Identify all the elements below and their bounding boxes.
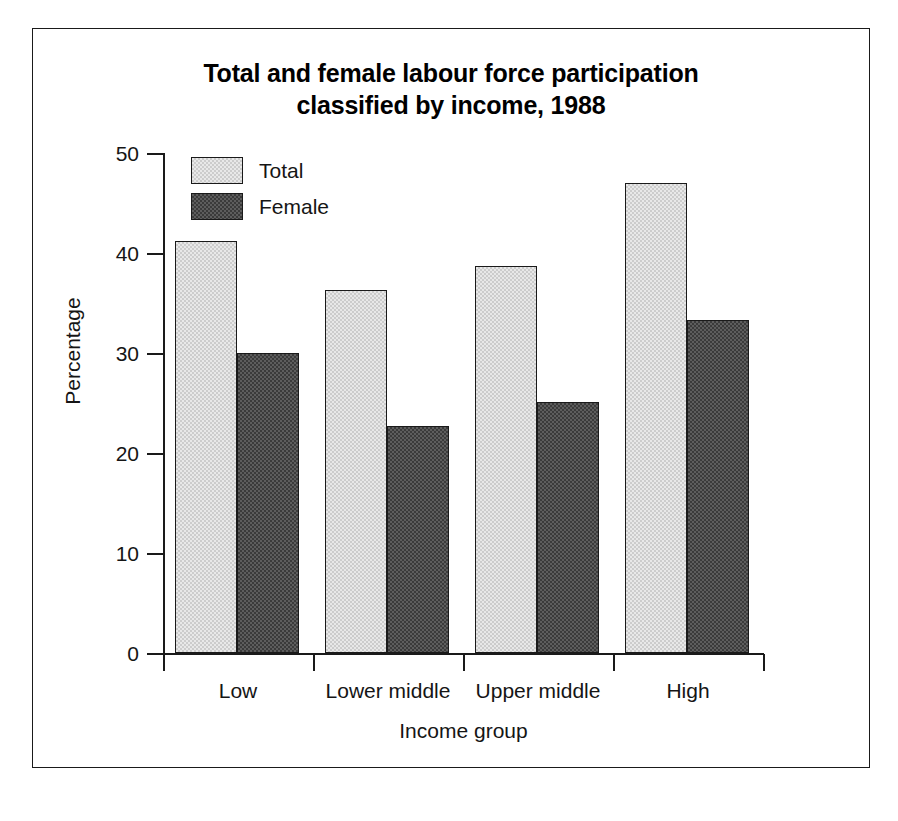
y-axis-tick-group: 50 40 30 20 10 0: [33, 29, 139, 769]
y-tick-label-40: 40: [79, 242, 139, 266]
x-tick-mark-1: [313, 654, 315, 671]
y-tick-mark-10: [147, 553, 163, 555]
y-tick-mark-50: [147, 153, 163, 155]
y-tick-label-50: 50: [79, 142, 139, 166]
y-tick-label-10: 10: [79, 542, 139, 566]
bar-total-high[interactable]: [625, 183, 687, 653]
x-tick-label-lower-middle: Lower middle: [326, 679, 451, 703]
y-tick-mark-30: [147, 353, 163, 355]
chart-legend: Total Female: [191, 157, 329, 229]
bar-total-lower-middle[interactable]: [325, 290, 387, 653]
bar-total-upper-middle[interactable]: [475, 266, 537, 653]
legend-item-total[interactable]: Total: [191, 157, 329, 184]
legend-label-female: Female: [259, 195, 329, 219]
bar-female-upper-middle[interactable]: [537, 402, 599, 653]
chart-title: Total and female labour force participat…: [33, 57, 869, 121]
legend-label-total: Total: [259, 159, 303, 183]
x-tick-mark-2: [463, 654, 465, 671]
y-tick-mark-20: [147, 453, 163, 455]
x-tick-mark-0: [163, 654, 165, 671]
x-tick-mark-4: [763, 654, 765, 671]
y-tick-label-30: 30: [79, 342, 139, 366]
y-tick-mark-0: [147, 653, 163, 655]
chart-title-line-1: Total and female labour force participat…: [33, 57, 869, 89]
x-tick-label-upper-middle: Upper middle: [476, 679, 601, 703]
legend-swatch-total-icon: [191, 157, 243, 184]
y-tick-mark-40: [147, 253, 163, 255]
legend-item-female[interactable]: Female: [191, 193, 329, 220]
y-tick-label-0: 0: [79, 642, 139, 666]
chart-title-line-2: classified by income, 1988: [33, 89, 869, 121]
x-tick-label-low: Low: [219, 679, 258, 703]
legend-swatch-female-icon: [191, 193, 243, 220]
x-axis-title: Income group: [163, 719, 764, 743]
bar-female-low[interactable]: [237, 353, 299, 653]
bar-female-lower-middle[interactable]: [387, 426, 449, 653]
x-tick-label-high: High: [666, 679, 709, 703]
x-tick-mark-3: [613, 654, 615, 671]
y-tick-label-20: 20: [79, 442, 139, 466]
bar-female-high[interactable]: [687, 320, 749, 653]
bar-total-low[interactable]: [175, 241, 237, 653]
chart-figure-frame: Total and female labour force participat…: [32, 28, 870, 768]
